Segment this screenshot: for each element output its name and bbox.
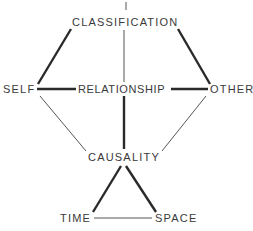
edge-classification-self	[38, 29, 71, 84]
node-other: OTHER	[210, 83, 253, 95]
concept-diagram: CLASSIFICATION SELF RELATIONSHIP OTHER C…	[0, 0, 253, 231]
node-relationship: RELATIONSHIP	[78, 83, 165, 95]
edge-classification-other	[178, 29, 210, 84]
edge-causality-time	[93, 166, 121, 212]
node-time: TIME	[60, 212, 91, 224]
node-space: SPACE	[155, 212, 197, 224]
node-classification: CLASSIFICATION	[72, 16, 178, 28]
edge-causality-space	[126, 166, 156, 212]
node-causality: CAUSALITY	[88, 151, 160, 163]
node-self: SELF	[3, 83, 35, 95]
diagram-edges	[0, 0, 253, 231]
edge-self-causality	[40, 96, 86, 151]
edge-other-causality	[162, 96, 206, 151]
